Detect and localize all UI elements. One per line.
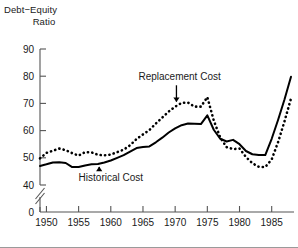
x-axis-tick-label: 1955 [67,217,90,228]
annotations-layer: Replacement CostHistorical Cost [79,71,221,182]
series-layer [40,77,291,167]
annotation-label: Replacement Cost [138,71,220,82]
x-axis-tick-label: 1970 [164,217,187,228]
x-axis-tick-label: 1980 [228,217,251,228]
series-line-replacement-cost [40,97,291,167]
y-axis-tick-label: 40 [23,180,35,191]
x-axis-tick-label: 1960 [100,217,123,228]
y-axis-tick-label: 80 [23,71,35,82]
y-axis-tick-label: 90 [23,44,35,55]
y-axis-tick-label: 0 [28,207,34,218]
chart-plot-area: 0405060708090195019551960196519701975198… [0,0,298,248]
x-axis-tick-label: 1985 [261,217,284,228]
y-axis-tick-label: 60 [23,125,35,136]
annotation-arrow-head [96,167,102,172]
annotation-label: Historical Cost [79,172,144,183]
x-axis-tick-label: 1950 [35,217,58,228]
y-axis-tick-label: 50 [23,152,35,163]
x-axis-tick-label: 1975 [196,217,219,228]
y-axis-tick-label: 70 [23,98,35,109]
chart-figure: Debt−Equity Ratio 0405060708090195019551… [0,0,298,248]
annotation-arrow-head [173,98,179,103]
series-line-historical-cost [40,77,291,167]
x-axis-tick-label: 1965 [132,217,155,228]
